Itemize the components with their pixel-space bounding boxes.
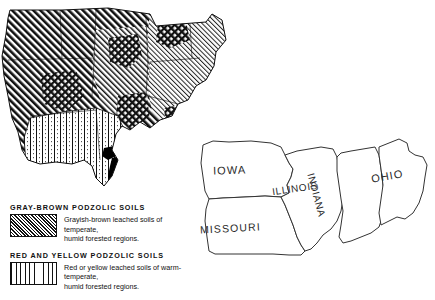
legend-desc-line-2: humid forested regions. [64, 234, 195, 244]
legend-description-red-yellow: Red or yellow leached soils of warm-temp… [64, 262, 195, 292]
legend-entry-gray-brown: GRAY-BROWN PODZOLIC SOILS Grayish-brown … [10, 203, 195, 244]
legend-heading-gray-brown: GRAY-BROWN PODZOLIC SOILS [10, 203, 195, 212]
inset-label-iowa: IOWA [213, 163, 247, 176]
legend-entry-red-yellow: RED AND YELLOW PODZOLIC SOILS Red or yel… [10, 251, 195, 292]
legend-swatch-diagonal-hatch-icon [10, 214, 57, 237]
figure-canvas: IOWA MISSOURI ILLINOIS INDIANA OHIO GRAY… [0, 0, 435, 300]
legend-swatch-vertical-dotted-icon [10, 262, 57, 285]
region-alluvial-dark [108, 156, 128, 196]
legend-heading-red-yellow: RED AND YELLOW PODZOLIC SOILS [10, 251, 195, 260]
inset-state-indiana[interactable] [337, 147, 385, 243]
map-legend: GRAY-BROWN PODZOLIC SOILS Grayish-brown … [10, 203, 195, 299]
legend-desc-line-1: Red or yellow leached soils of warm-temp… [64, 263, 181, 282]
legend-desc-line-1: Grayish-brown leached soils of temperate… [64, 215, 162, 234]
legend-desc-line-2: humid forested regions. [64, 282, 195, 292]
legend-description-gray-brown: Grayish-brown leached soils of temperate… [64, 214, 195, 244]
